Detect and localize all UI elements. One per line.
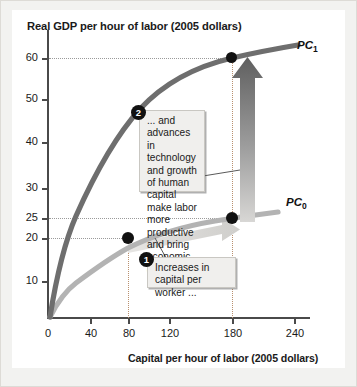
curve-label-pc1-text: PC (297, 39, 313, 51)
callout-two-leader (203, 170, 240, 176)
figure-container: Real GDP per hour of labor (2005 dollars… (0, 0, 357, 387)
curve-label-pc1: PC1 (297, 39, 318, 54)
x-axis-title: Capital per hour of labor (2005 dollars) (128, 352, 318, 364)
point-a-pc0-80-20 (122, 232, 134, 244)
curves-layer (0, 0, 357, 387)
curve-label-pc1-sub: 1 (313, 44, 318, 54)
curve-label-pc0-text: PC (286, 196, 302, 208)
curve-label-pc0: PC0 (286, 196, 307, 211)
curve-label-pc0-sub: 0 (302, 201, 307, 211)
callout-two-badge: 2 (131, 105, 146, 120)
callout-one-badge: 1 (139, 252, 154, 267)
callout-one: Increases in capital per worker ... (147, 257, 236, 288)
callout-two: ... and advances in technology and growt… (139, 110, 205, 192)
point-b-pc0-180-25 (226, 212, 238, 224)
point-c-pc1-180-60 (226, 52, 237, 63)
curve-shift-arrow (232, 57, 263, 222)
